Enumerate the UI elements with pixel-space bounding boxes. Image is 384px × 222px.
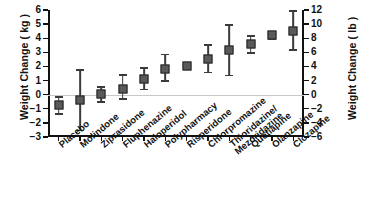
data-point-marker[interactable] [268,31,277,40]
error-cap-lower [161,80,169,82]
data-point-marker[interactable] [204,55,213,64]
error-cap-upper [55,96,63,98]
error-cap-upper [76,69,84,71]
data-point-marker[interactable] [76,96,85,105]
axis-spine-left [48,10,50,137]
error-cap-upper [247,35,255,37]
y-tick-label-left: 1 [1,76,41,86]
error-cap-upper [140,67,148,69]
error-cap-lower [289,49,297,51]
error-cap-upper [161,54,169,56]
y-tick-label-right: 4 [311,61,351,71]
y-tick-label-right: −6 [311,132,351,142]
data-point-marker[interactable] [246,39,255,48]
error-cap-lower [97,101,105,103]
y-tick-left [43,9,48,10]
y-tick-left [43,136,48,137]
error-cap-lower [140,89,148,91]
y-tick-label-left: −2 [1,118,41,128]
y-tick-left [43,52,48,53]
y-tick-left [43,38,48,39]
y-tick-left [43,122,48,123]
y-tick-label-right: 0 [311,90,351,100]
y-tick-right [304,66,309,67]
error-cap-lower [119,98,127,100]
y-tick-label-right: 10 [311,19,351,29]
error-cap-upper [119,74,127,76]
y-tick-label-right: 6 [311,47,351,57]
y-tick-label-left: −3 [1,132,41,142]
data-point-marker[interactable] [140,75,149,84]
y-tick-left [43,23,48,24]
y-tick-label-left: 5 [1,19,41,29]
error-cap-upper [97,86,105,88]
error-cap-lower [204,72,212,74]
y-tick-right [304,94,309,95]
error-cap-upper [225,24,233,26]
error-cap-lower [247,52,255,54]
error-cap-upper [289,10,297,12]
y-tick-left [43,94,48,95]
y-tick-label-left: 3 [1,47,41,57]
y-tick-left [43,108,48,109]
y-tick-right [304,52,309,53]
y-tick-right [304,9,309,10]
y-tick-label-left: 6 [1,5,41,15]
error-cap-upper [204,44,212,46]
y-tick-label-right: 12 [311,5,351,15]
data-point-marker[interactable] [161,64,170,73]
y-tick-label-right: −2 [311,104,351,114]
error-cap-lower [225,75,233,77]
data-point-marker[interactable] [289,27,298,36]
y-tick-label-left: −1 [1,104,41,114]
y-tick-left [43,66,48,67]
weight-change-forest-plot: Weight Change ( kg ) Weight Change ( lb … [0,0,384,222]
error-cap-lower [55,113,63,115]
y-tick-right [304,23,309,24]
data-point-marker[interactable] [182,62,191,71]
y-tick-left [43,80,48,81]
data-point-marker[interactable] [118,85,127,94]
data-point-marker[interactable] [54,101,63,110]
y-tick-label-left: 0 [1,90,41,100]
y-tick-label-left: 2 [1,61,41,71]
y-tick-right [304,80,309,81]
zero-reference-line [48,95,304,96]
y-tick-label-right: 8 [311,33,351,43]
data-point-marker[interactable] [97,89,106,98]
y-tick-label-right: 2 [311,76,351,86]
data-point-marker[interactable] [225,45,234,54]
y-tick-label-left: 4 [1,33,41,43]
y-tick-right [304,38,309,39]
